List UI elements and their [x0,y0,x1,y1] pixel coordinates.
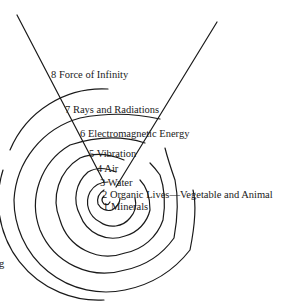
label-water: 3 Water [100,177,133,189]
edge-text-fragment: g [0,258,4,270]
spiral-diagram: 8 Force of Infinity 7 Rays and Radiation… [0,0,297,307]
label-vibration: 5 Vibration [89,148,136,160]
label-air: 4 Air [97,163,118,175]
label-organic-lives: 2 Organic Lives—Vegetable and Animal [102,189,273,201]
spiral-graphic [0,0,297,307]
label-force-of-infinity: 8 Force of Infinity [51,69,128,81]
label-minerals: 1 Minerals [103,201,148,213]
label-rays-and-radiations: 7 Rays and Radiations [65,104,159,116]
spiral-arc-8 [0,89,108,300]
label-electromagnetic-energy: 6 Electromagnetic Energy [80,128,189,140]
